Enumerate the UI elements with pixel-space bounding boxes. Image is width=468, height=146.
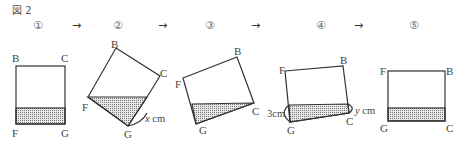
- vertex-g: G: [199, 124, 207, 136]
- step-label-4: ④: [316, 19, 326, 32]
- step-label-2: ②: [113, 19, 123, 32]
- shape-step-5: B C F G: [380, 65, 453, 134]
- arrow-icon: →: [158, 19, 167, 32]
- arrow-icon: →: [72, 19, 81, 32]
- vertex-c: C: [346, 115, 353, 127]
- arrow-icon: →: [354, 19, 363, 32]
- shape-step-2: B C F G x cm: [82, 38, 167, 140]
- vertex-f: F: [279, 64, 285, 76]
- shaded-band: [16, 108, 65, 124]
- shape-step-1: B C F G: [12, 52, 69, 139]
- dimension-y-label: y cm: [354, 105, 375, 116]
- vertex-c: C: [446, 122, 453, 134]
- vertex-g: G: [287, 124, 295, 136]
- shape-step-3: B C F G: [175, 45, 259, 136]
- vertex-f: F: [175, 78, 181, 90]
- step-label-1: ①: [33, 19, 43, 32]
- vertex-b: B: [234, 45, 241, 57]
- figure-2-diagram: 図 2 ① → ② → ③ → ④ → ⑤ B C F G B C F G x …: [0, 0, 468, 146]
- dimension-3cm-label: 3cm: [267, 108, 285, 119]
- shaded-band: [388, 108, 445, 121]
- vertex-f: F: [12, 127, 18, 139]
- arrow-icon: →: [251, 19, 260, 32]
- shaded-band: [289, 104, 349, 122]
- vertex-g: G: [380, 122, 388, 134]
- dimension-x-label: x cm: [144, 113, 165, 124]
- vertex-b: B: [111, 38, 118, 50]
- vertex-c: C: [61, 52, 68, 64]
- vertex-f: F: [380, 65, 386, 77]
- vertex-c: C: [252, 105, 259, 117]
- step-label-5: ⑤: [409, 19, 419, 32]
- vertex-b: B: [340, 54, 347, 66]
- vertex-b: B: [446, 65, 453, 77]
- step-label-3: ③: [205, 19, 215, 32]
- shape-step-4: B C F G 3cm y cm: [267, 54, 375, 136]
- vertex-f: F: [82, 101, 88, 113]
- vertex-b: B: [12, 52, 19, 64]
- vertex-g: G: [124, 128, 132, 140]
- vertex-g: G: [61, 127, 69, 139]
- figure-title: 図 2: [12, 5, 32, 16]
- vertex-c: C: [160, 67, 167, 79]
